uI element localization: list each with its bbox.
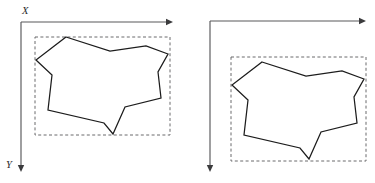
left-panel-y-axis-label: Y [6,159,13,170]
left-panel-polygon [36,37,168,134]
right-panel [207,18,366,172]
left-panel-x-axis-label: X [21,5,29,16]
left-panel-y-axis-arrowhead [18,165,24,172]
right-panel-y-axis-arrowhead [207,165,213,172]
right-panel-polygon [232,62,364,159]
figure-container: X Y [0,0,375,183]
right-panel-x-axis-arrowhead [359,18,366,24]
figure-canvas: X Y [0,0,375,183]
left-panel: X Y [6,5,173,172]
left-panel-x-axis-arrowhead [166,19,173,25]
